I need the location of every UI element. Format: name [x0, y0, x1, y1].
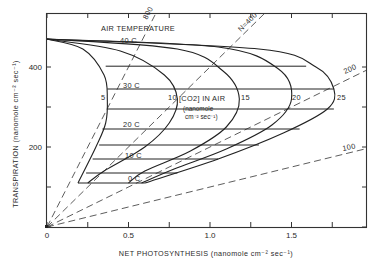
ray-label-200: 200 [342, 62, 358, 76]
x-tick-label: 0 [45, 231, 50, 240]
temperature-lines [78, 66, 334, 183]
temp-label-20c: 20 C [123, 120, 140, 129]
co2-units-line1: (nanomole [183, 105, 214, 113]
co2-units-line2: cm⁻² sec⁻¹) [185, 113, 218, 121]
x-tick-label: 1.5 [286, 231, 298, 240]
co2-curve-5 [46, 39, 107, 183]
ray-label-100: 100 [342, 141, 357, 153]
origin-marker [45, 225, 48, 228]
temp-label-10c: 10 C [125, 151, 142, 160]
curve-label-10: 10 [168, 93, 177, 102]
chart: 00.51.01.5200400 NET PHOTOSYNTHESIS (nan… [0, 0, 376, 262]
curve-label-15: 15 [241, 93, 250, 102]
y-tick-label: 200 [29, 143, 43, 152]
co2-curve-10 [46, 39, 177, 183]
curve-label-20: 20 [292, 93, 301, 102]
curve-label-5: 5 [101, 93, 105, 102]
temp-label-30c: 30 C [123, 81, 140, 90]
y-tick-label: 400 [29, 63, 43, 72]
curve-label-25: 25 [337, 93, 346, 102]
x-axis-label: NET PHOTOSYNTHESIS (nanomole cm⁻² sec⁻¹) [119, 249, 293, 258]
temp-label-40c: 40 C [120, 36, 137, 45]
temp-label-0c: 0 C [128, 174, 141, 183]
x-tick-label: 1.0 [204, 231, 216, 240]
ray-line [47, 149, 367, 227]
air-temperature-title: AIR TEMPERATURE [101, 24, 175, 33]
co2-title: [CO2] IN AIR [179, 94, 225, 103]
co2-curve-20 [46, 39, 292, 183]
y-axis-label: TRANSPIRATION (nanomole cm⁻² sec⁻¹) [11, 60, 20, 208]
x-tick-label: 0.5 [123, 231, 135, 240]
